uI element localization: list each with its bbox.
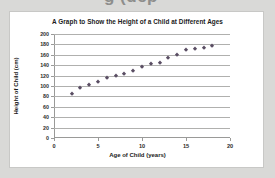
gridline	[54, 128, 230, 129]
x-tick-label: 0	[52, 143, 55, 149]
x-tick	[54, 138, 55, 141]
y-tick-label: 100	[40, 83, 49, 89]
y-tick	[51, 107, 54, 108]
y-tick-label: 60	[43, 104, 49, 110]
y-tick-label: 200	[40, 31, 49, 37]
gridline	[54, 117, 230, 118]
y-tick-label: 20	[43, 125, 49, 131]
clipped-banner-text: g (dcp	[104, 0, 158, 7]
y-tick	[51, 96, 54, 97]
gridline	[54, 34, 230, 35]
y-tick-label: 120	[40, 73, 49, 79]
x-tick	[142, 138, 143, 141]
y-tick-label: 0	[46, 135, 49, 141]
clipped-top-banner: g (dcp	[0, 0, 275, 11]
gridline	[54, 107, 230, 108]
y-tick	[51, 86, 54, 87]
y-tick	[51, 34, 54, 35]
gridline	[54, 55, 230, 56]
chart-title: A Graph to Show the Height of a Child at…	[10, 18, 265, 25]
y-tick-label: 40	[43, 114, 49, 120]
chart-panel: A Graph to Show the Height of a Child at…	[9, 11, 264, 168]
y-tick	[51, 76, 54, 77]
y-axis-title: Height of Child (cm)	[13, 58, 19, 115]
x-axis-title: Age of Child (years)	[10, 152, 265, 158]
gridline	[54, 76, 230, 77]
y-tick	[51, 55, 54, 56]
x-tick-label: 20	[227, 143, 233, 149]
y-tick	[51, 117, 54, 118]
y-tick-label: 140	[40, 62, 49, 68]
plot-area: 020406080100120140160180200 05101520	[54, 34, 230, 138]
x-tick-label: 15	[183, 143, 189, 149]
x-tick	[230, 138, 231, 141]
x-tick-label: 5	[96, 143, 99, 149]
y-tick-label: 160	[40, 52, 49, 58]
y-tick-label: 80	[43, 93, 49, 99]
gridline	[54, 96, 230, 97]
y-tick	[51, 65, 54, 66]
x-tick-label: 10	[139, 143, 145, 149]
y-tick-label: 180	[40, 41, 49, 47]
y-tick	[51, 44, 54, 45]
x-tick	[98, 138, 99, 141]
y-tick	[51, 128, 54, 129]
x-tick	[186, 138, 187, 141]
